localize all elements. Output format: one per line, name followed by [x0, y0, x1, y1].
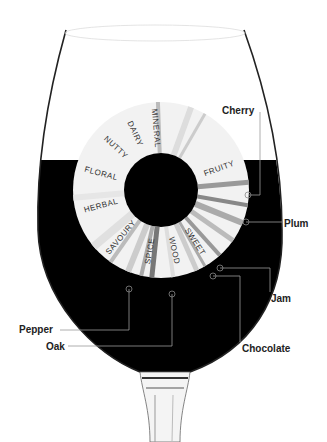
callout-jam: Jam	[271, 293, 291, 304]
callout-cherry: Cherry	[222, 105, 254, 116]
callout-chocolate: Chocolate	[242, 343, 290, 354]
glass-illustration: MINERALDAIRYNUTTYFLORALHERBALSAVOURYSPIC…	[0, 0, 327, 442]
callout-pepper: Pepper	[19, 324, 53, 335]
callout-plum: Plum	[284, 218, 308, 229]
aroma-wheel: MINERALDAIRYNUTTYFLORALHERBALSAVOURYSPIC…	[73, 102, 249, 278]
callout-oak: Oak	[46, 341, 65, 352]
wine-glass-diagram: MINERALDAIRYNUTTYFLORALHERBALSAVOURYSPIC…	[0, 0, 327, 442]
wheel-center	[124, 153, 198, 227]
glass-stem	[140, 372, 190, 442]
